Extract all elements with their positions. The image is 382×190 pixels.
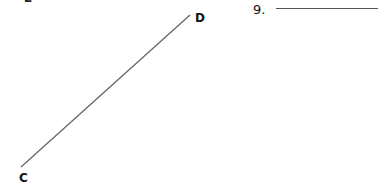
point-label-c: C <box>19 172 28 184</box>
segment-cd <box>21 15 190 167</box>
answer-blank[interactable] <box>276 8 378 9</box>
question-number: 9. <box>253 3 265 16</box>
line-segment-figure <box>0 0 382 190</box>
point-label-d: D <box>195 12 205 24</box>
